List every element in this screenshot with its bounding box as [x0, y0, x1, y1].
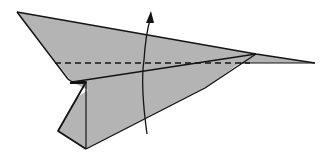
origami-diagram — [0, 0, 336, 164]
arrow-head-icon — [146, 11, 154, 23]
paper-airplane — [17, 12, 315, 149]
